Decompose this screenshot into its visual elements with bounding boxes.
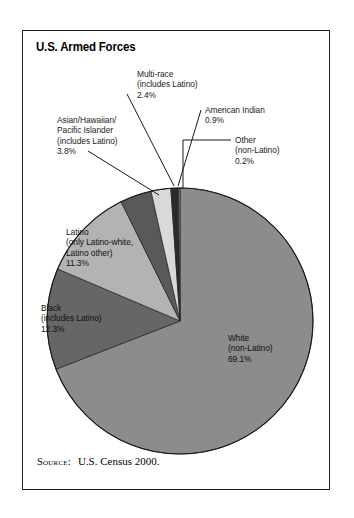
figure-panel: U.S. Armed Forces Multi-race (includes L… <box>22 30 330 490</box>
slice-latino-line2: (only Latino-white, <box>66 237 133 247</box>
slice-black-value: 12.3% <box>41 324 102 334</box>
slice-white-value: 69.1% <box>228 354 273 364</box>
slice-label-black: Black (includes Latino) 12.3% <box>41 303 102 334</box>
slice-black-line1: Black <box>41 303 102 313</box>
source-note: Source:U.S. Census 2000. <box>37 455 159 467</box>
callout-multi-race-value: 2.4% <box>137 90 198 100</box>
callout-multi-race-line1: Multi-race <box>137 69 198 79</box>
slice-white-line1: White <box>228 333 273 343</box>
callout-asian-line3: (includes Latino) <box>57 136 118 146</box>
slice-latino-line1: Latino <box>66 227 133 237</box>
leader-line-asian <box>88 151 159 195</box>
callout-asian-line2: Pacific Islander <box>57 125 118 135</box>
source-label: Source: <box>37 456 71 467</box>
callout-label-american-indian: American Indian 0.9% <box>205 105 265 126</box>
callout-label-multi-race: Multi-race (includes Latino) 2.4% <box>137 69 198 100</box>
callout-label-other: Other (non-Latino) 0.2% <box>235 135 280 166</box>
slice-black-line2: (includes Latino) <box>41 313 102 323</box>
source-text: U.S. Census 2000. <box>78 455 160 467</box>
slice-latino-value: 11.3% <box>66 258 133 268</box>
leader-line-multirace <box>127 94 174 186</box>
callout-other-value: 0.2% <box>235 156 280 166</box>
callout-other-line1: Other <box>235 135 280 145</box>
callout-american-indian-value: 0.9% <box>205 115 265 125</box>
slice-white-line2: (non-Latino) <box>228 343 273 353</box>
callout-multi-race-line2: (includes Latino) <box>137 79 198 89</box>
callout-asian-value: 3.8% <box>57 146 118 156</box>
slice-label-white: White (non-Latino) 69.1% <box>228 333 273 364</box>
leader-line-amerindian <box>178 110 201 186</box>
slice-latino-line3: Latino other) <box>66 248 133 258</box>
callout-other-line2: (non-Latino) <box>235 145 280 155</box>
callout-asian-line1: Asian/Hawaiian/ <box>57 115 118 125</box>
callout-american-indian-line1: American Indian <box>205 105 265 115</box>
callout-label-asian-pacific-islander: Asian/Hawaiian/ Pacific Islander (includ… <box>57 115 118 157</box>
slice-label-latino: Latino (only Latino-white, Latino other)… <box>66 227 133 269</box>
